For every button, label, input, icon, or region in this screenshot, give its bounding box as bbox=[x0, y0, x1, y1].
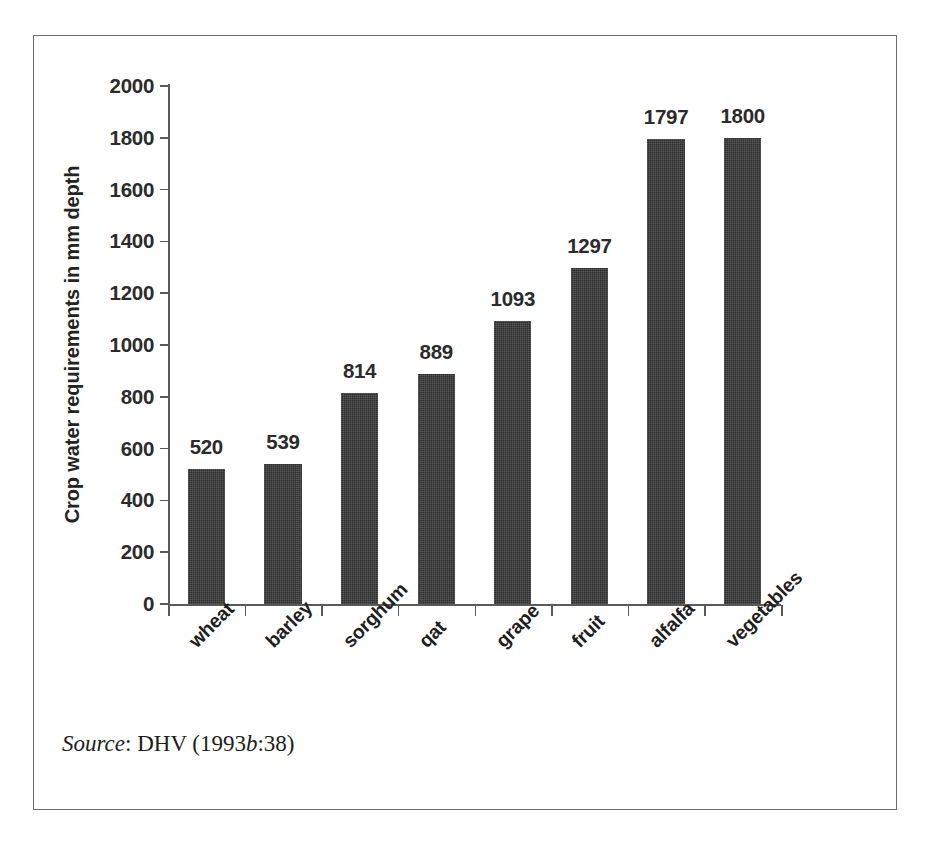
source-page: :38) bbox=[257, 731, 294, 756]
y-axis-tick bbox=[160, 241, 169, 243]
bar[interactable] bbox=[724, 138, 761, 604]
bar-chart: Crop water requirements in mm depth 0200… bbox=[34, 36, 898, 811]
x-axis-category-label: grape bbox=[491, 599, 544, 652]
bar[interactable] bbox=[418, 374, 455, 604]
bar[interactable] bbox=[188, 469, 225, 604]
figure-frame: Crop water requirements in mm depth 0200… bbox=[33, 35, 897, 810]
x-axis-tick bbox=[628, 605, 630, 616]
x-axis-category-label: wheat bbox=[184, 598, 239, 653]
bar[interactable] bbox=[264, 464, 301, 604]
y-axis-tick-label: 600 bbox=[92, 439, 154, 460]
y-axis-tick bbox=[160, 292, 169, 294]
bar-value-label: 1297 bbox=[539, 236, 639, 257]
y-axis-tick-label: 200 bbox=[92, 542, 154, 563]
bar-value-label: 1800 bbox=[693, 106, 793, 127]
y-axis-tick bbox=[160, 137, 169, 139]
x-axis-tick bbox=[168, 605, 170, 616]
bar[interactable] bbox=[647, 139, 684, 604]
y-axis-tick bbox=[160, 500, 169, 502]
bar-value-label: 539 bbox=[233, 432, 333, 453]
y-axis-tick-label: 1800 bbox=[92, 128, 154, 149]
y-axis-tick bbox=[160, 344, 169, 346]
y-axis-tick-label: 800 bbox=[92, 387, 154, 408]
x-axis-tick bbox=[321, 605, 323, 616]
bar-value-label: 814 bbox=[310, 361, 410, 382]
y-axis-title: Crop water requirements in mm depth bbox=[61, 110, 84, 580]
y-axis-tick-label: 1400 bbox=[92, 231, 154, 252]
bar-value-label: 889 bbox=[386, 342, 486, 363]
source-edition-letter: b bbox=[246, 731, 258, 756]
y-axis-tick-label: 1000 bbox=[92, 335, 154, 356]
y-axis-tick bbox=[160, 396, 169, 398]
bar[interactable] bbox=[571, 268, 608, 604]
y-axis-tick bbox=[160, 551, 169, 553]
source-separator: : DHV (1993 bbox=[125, 731, 246, 756]
bar[interactable] bbox=[341, 393, 378, 604]
x-axis-category-label: fruit bbox=[567, 610, 609, 652]
y-axis-tick bbox=[160, 189, 169, 191]
source-note: Source: DHV (1993b:38) bbox=[62, 731, 295, 757]
x-axis-tick bbox=[551, 605, 553, 616]
x-axis-tick bbox=[245, 605, 247, 616]
bar-value-label: 1093 bbox=[463, 289, 563, 310]
y-axis-tick-label: 1600 bbox=[92, 180, 154, 201]
x-axis-category-label: qat bbox=[414, 616, 451, 653]
y-axis-tick-label: 400 bbox=[92, 490, 154, 511]
y-axis-tick bbox=[160, 85, 169, 87]
y-axis-tick-label: 1200 bbox=[92, 283, 154, 304]
x-axis-tick bbox=[475, 605, 477, 616]
y-axis-tick-label: 0 bbox=[92, 594, 154, 615]
y-axis-tick-label: 2000 bbox=[92, 76, 154, 97]
bar[interactable] bbox=[494, 321, 531, 604]
x-axis-tick bbox=[704, 605, 706, 616]
source-label: Source bbox=[62, 731, 125, 756]
